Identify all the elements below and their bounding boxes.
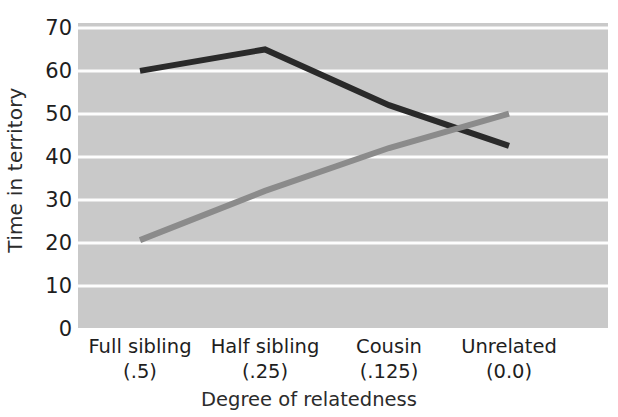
y-tick-label: 50 bbox=[30, 104, 72, 125]
line-chart: Time in territory 70 60 50 40 30 20 10 0… bbox=[0, 0, 618, 417]
series-lines bbox=[78, 23, 608, 328]
x-axis-title: Degree of relatedness bbox=[0, 388, 618, 411]
data-line-gray bbox=[140, 114, 509, 240]
y-tick-label: 20 bbox=[30, 233, 72, 254]
y-tick-label: 70 bbox=[30, 18, 72, 39]
x-tick-group: Unrelated (0.0) bbox=[424, 334, 594, 384]
y-tick-label: 10 bbox=[30, 276, 72, 297]
y-tick-label: 40 bbox=[30, 147, 72, 168]
x-axis-tick-labels: Full sibling (.5) Half sibling (.25) Cou… bbox=[0, 334, 618, 392]
plot-area bbox=[78, 23, 608, 328]
y-tick-label: 60 bbox=[30, 61, 72, 82]
x-tick-sublabel: (0.0) bbox=[424, 359, 594, 384]
y-tick-label: 30 bbox=[30, 190, 72, 211]
x-tick-label: Unrelated bbox=[424, 334, 594, 359]
